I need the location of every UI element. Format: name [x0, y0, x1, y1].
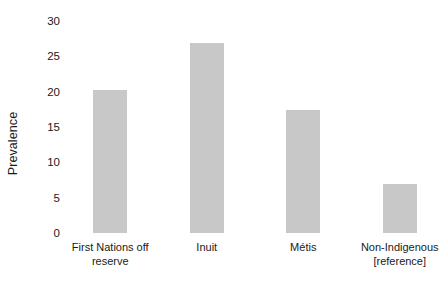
y-tick-label: 10 [28, 156, 60, 168]
bar-group: Non-Indigenous [reference] [352, 0, 448, 287]
y-axis-tick-labels: 051015202530 [28, 0, 60, 287]
bar [383, 184, 417, 233]
bar-group: First Nations off reserve [62, 0, 159, 287]
bar [93, 90, 127, 233]
y-tick-label: 30 [28, 15, 60, 27]
y-tick-label: 20 [28, 86, 60, 98]
plot-area: First Nations off reserveInuitMétisNon-I… [62, 0, 448, 287]
bar-group: Métis [255, 0, 352, 287]
y-tick-label: 0 [28, 227, 60, 239]
x-axis-category-label: First Nations off reserve [62, 241, 159, 268]
x-axis-category-label: Non-Indigenous [reference] [352, 241, 448, 268]
x-axis-category-label: Métis [255, 241, 352, 255]
y-axis-title: Prevalence [0, 0, 26, 287]
y-tick-label: 5 [28, 192, 60, 204]
x-axis-category-label: Inuit [159, 241, 256, 255]
bar-chart-figure: Prevalence 051015202530 First Nations of… [0, 0, 448, 287]
bar [286, 110, 320, 233]
bar-group: Inuit [159, 0, 256, 287]
y-tick-label: 15 [28, 121, 60, 133]
y-tick-label: 25 [28, 50, 60, 62]
bar [190, 43, 224, 233]
